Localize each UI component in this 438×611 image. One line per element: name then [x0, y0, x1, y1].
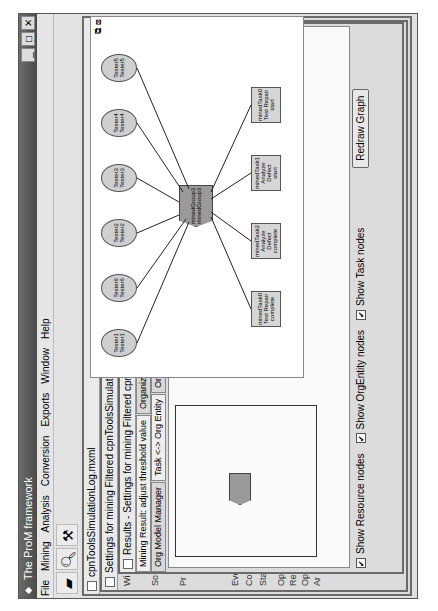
show-orgentity-nodes-checkbox[interactable]: ✔Show OrgEntity nodes — [355, 330, 366, 444]
close-button[interactable]: ✕ — [21, 16, 35, 30]
show-resource-nodes-checkbox[interactable]: ✔Show Resource nodes — [355, 453, 366, 568]
maximize-button[interactable]: □ — [21, 32, 35, 46]
mining-icon[interactable]: ⚒ — [56, 524, 78, 546]
menu-help[interactable]: Help — [40, 319, 51, 340]
menu-conversion[interactable]: Conversion — [40, 436, 51, 487]
overview-group-node — [229, 473, 251, 505]
title-bar: ◆ The ProM framework _ □ ✕ — [19, 14, 37, 598]
show-task-nodes-checkbox[interactable]: ✔Show Task nodes — [355, 228, 366, 320]
search-icon[interactable]: 🔍︎ — [56, 548, 78, 570]
zoomed-graph-panel[interactable]: ⧉ ⊠ Tester1Tester1 Tester6Tester6 Tester… — [90, 16, 304, 378]
menu-bar: File Mining Analysis Conversion Exports … — [37, 14, 54, 598]
minimize-button[interactable]: _ — [21, 48, 35, 62]
rotated-screen: ◆ The ProM framework _ □ ✕ File Mining A… — [0, 0, 438, 611]
menu-mining[interactable]: Mining — [40, 541, 51, 570]
frame-icon — [105, 577, 115, 587]
frame-icon — [87, 581, 97, 591]
toolbar: ▰ 🔍︎ ⚒ — [54, 14, 81, 598]
menu-exports[interactable]: Exports — [40, 393, 51, 427]
window-title: The ProM framework — [22, 62, 34, 580]
desktop-pane: cpnToolsSimulationLog.mxml Settings for … — [80, 14, 417, 598]
graph-edges — [91, 17, 303, 377]
app-icon: ◆ — [23, 584, 33, 594]
prom-main-window: ◆ The ProM framework _ □ ✕ File Mining A… — [18, 13, 418, 599]
menu-analysis[interactable]: Analysis — [40, 495, 51, 532]
tab-org-model-manager[interactable]: Org Model Manager — [151, 482, 166, 572]
open-folder-icon[interactable]: ▰ — [56, 572, 78, 594]
tab-mining-result[interactable]: Mining Result: adjust threshold value — [136, 415, 151, 572]
options-row: ✔Show Resource nodes ✔Show OrgEntity nod… — [352, 89, 369, 568]
redraw-graph-button[interactable]: Redraw Graph — [352, 89, 369, 168]
tab-task-org-entity[interactable]: Task <-> Org Entity — [151, 394, 166, 481]
tab-organiz[interactable]: Organiz — [136, 372, 151, 414]
frame-icon — [123, 559, 133, 569]
menu-file[interactable]: File — [40, 580, 51, 596]
menu-window[interactable]: Window — [40, 348, 51, 384]
